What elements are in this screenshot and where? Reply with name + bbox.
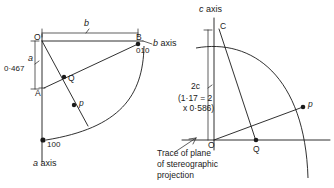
point-Q-dot: [62, 75, 66, 79]
label-c-value-line1: (1·17 = 2: [178, 93, 212, 103]
b-to-a-line: [44, 44, 138, 88]
c-to-q-line: [219, 29, 256, 141]
label-c-value-line2: x 0·586): [183, 103, 214, 113]
label-point-Q-left: Q: [68, 74, 75, 84]
label-point-B: B: [136, 33, 142, 43]
label-annotation-line1: Trace of plane: [157, 148, 211, 158]
label-b-length: b: [84, 18, 89, 28]
a-dimension-brace: [35, 61, 39, 64]
b-dimension-brace: [86, 29, 89, 33]
point-p-dot: [72, 103, 76, 107]
o-to-p-line: [214, 107, 303, 140]
point-p-right-dot: [301, 105, 306, 110]
label-point-C: C: [220, 22, 226, 32]
label-point-p-right: p: [308, 100, 313, 110]
label-c-axis: c axis: [199, 4, 222, 14]
label-b-axis: b axis: [153, 38, 177, 48]
label-annotation-line3: projection: [157, 170, 194, 180]
point-Q-right-dot: [254, 138, 259, 143]
label-index-010: 010: [136, 47, 149, 56]
figure-root: b O B b axis 010 a 0·467 A Q p 100 a axi…: [0, 0, 334, 188]
label-c-symbol: 2c: [191, 82, 200, 92]
label-index-100: 100: [47, 141, 60, 150]
left-arc: [46, 46, 144, 140]
label-a-symbol: a: [28, 53, 33, 63]
label-c-symbol-text: 2c: [191, 81, 200, 91]
o-to-arc-line: [42, 41, 88, 126]
c-dimension-brace: [208, 85, 212, 88]
label-c-axis-word: axis: [204, 4, 223, 14]
label-point-O-left: O: [34, 33, 41, 43]
label-point-Q-right: Q: [253, 145, 260, 155]
label-point-p-left: p: [79, 99, 84, 109]
label-a-axis-word: axis: [38, 158, 57, 168]
label-a-value: 0·467: [4, 65, 24, 74]
label-annotation-line2: of stereographic: [157, 159, 218, 169]
label-b-axis-word: axis: [158, 38, 177, 48]
label-point-A: A: [35, 89, 41, 99]
point-100-dot: [40, 137, 45, 142]
label-a-axis: a axis: [33, 158, 57, 168]
b-axis-pointer: [143, 41, 152, 44]
